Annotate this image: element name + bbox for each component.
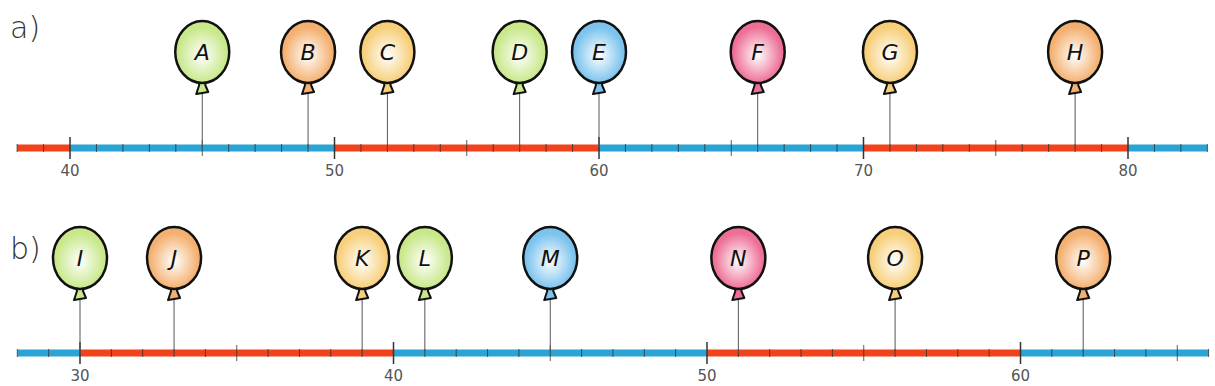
balloon-letter: F [751,40,764,65]
number-line-a: 4050607080ABCDEFGH [0,0,1215,193]
tick-label: 30 [70,367,89,385]
tick-label: 40 [60,162,79,180]
balloon-letter: P [1077,246,1091,271]
balloon-letter: D [511,40,528,65]
balloon-o[interactable]: O [868,227,922,353]
balloon-letter: O [886,246,903,271]
number-line-b: 30405060IJKLMNOP [0,193,1215,386]
balloon-m[interactable]: M [523,227,577,353]
balloon-letter: K [355,246,371,271]
balloon-d[interactable]: D [493,21,547,148]
exercise-b: b) 30405060IJKLMNOP [0,193,1215,386]
balloon-e[interactable]: E [572,21,626,148]
balloon-letter: B [301,40,316,65]
balloon-letter: E [592,40,606,65]
tick-label: 40 [384,367,403,385]
balloon-k[interactable]: K [335,227,389,353]
balloon-h[interactable]: H [1048,21,1102,148]
balloon-g[interactable]: G [863,21,917,148]
tick-label: 60 [1011,367,1030,385]
balloon-i[interactable]: I [53,227,107,353]
tick-label: 70 [854,162,873,180]
tick-label: 50 [697,367,716,385]
balloon-c[interactable]: C [360,21,414,148]
tick-label: 50 [325,162,344,180]
balloon-j[interactable]: J [147,227,201,353]
balloon-letter: I [77,246,84,271]
balloon-letter: L [419,246,431,271]
tick-label: 80 [1118,162,1137,180]
balloon-b[interactable]: B [281,21,335,148]
balloon-n[interactable]: N [711,227,765,353]
balloon-l[interactable]: L [398,227,452,353]
balloon-f[interactable]: F [731,21,785,148]
exercise-a: a) 4050607080ABCDEFGH [0,0,1215,193]
balloon-p[interactable]: P [1056,227,1110,353]
balloon-letter: H [1067,40,1084,65]
balloon-letter: N [730,246,746,271]
balloon-letter: G [881,40,898,65]
balloon-a[interactable]: A [175,21,229,148]
balloon-letter: M [541,246,560,271]
tick-label: 60 [589,162,608,180]
balloon-letter: A [193,40,210,65]
balloon-letter: C [380,40,396,65]
